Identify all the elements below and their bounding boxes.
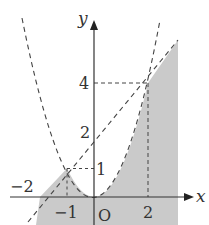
x-tick-minus-2: −2	[10, 177, 34, 196]
y-tick-1: 1	[96, 160, 106, 179]
math-diagram: y x O 4 2 1 −2 −1 2	[0, 0, 209, 225]
y-tick-4: 4	[79, 74, 89, 93]
y-axis-label: y	[77, 8, 88, 28]
x-axis-label: x	[196, 186, 206, 206]
origin-label: O	[98, 206, 111, 225]
x-axis-arrow-icon	[184, 193, 194, 201]
x-tick-minus-1: −1	[54, 203, 78, 222]
x-tick-2: 2	[143, 203, 153, 222]
y-axis-arrow-icon	[90, 20, 98, 30]
y-tick-2: 2	[80, 123, 90, 142]
